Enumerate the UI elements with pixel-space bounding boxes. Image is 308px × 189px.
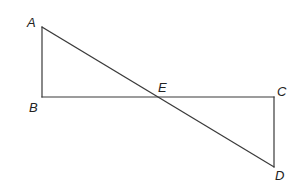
label-e: E	[158, 80, 167, 95]
label-c: C	[277, 84, 287, 99]
label-d: D	[275, 168, 284, 183]
label-b: B	[29, 100, 38, 115]
label-a: A	[26, 15, 36, 30]
geometry-diagram: A B E C D	[0, 0, 308, 189]
